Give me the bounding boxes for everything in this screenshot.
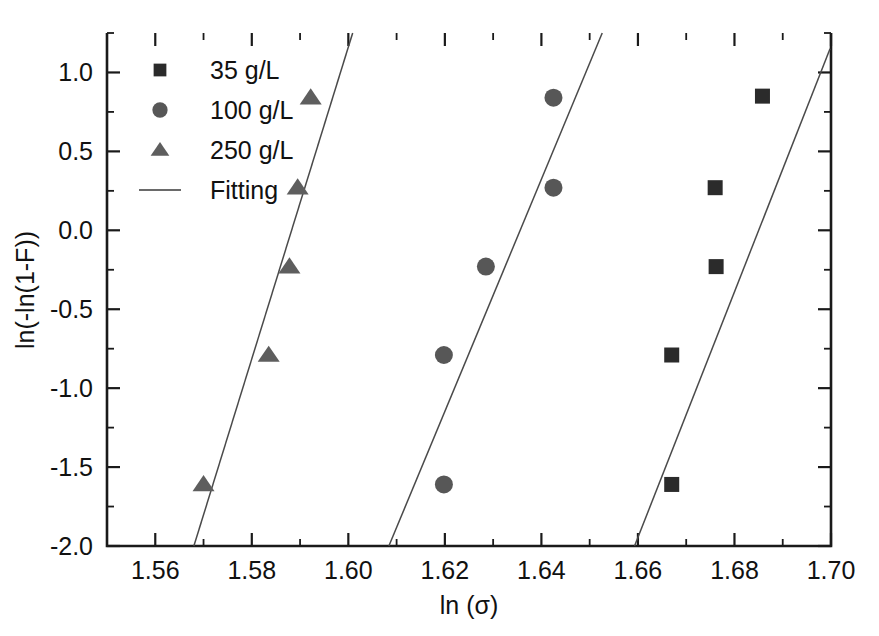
x-tick-label: 1.64 bbox=[517, 556, 566, 584]
legend-label-1: 100 g/L bbox=[210, 96, 294, 124]
legend-marker-triangle bbox=[151, 142, 170, 156]
data-point-square bbox=[664, 348, 679, 363]
data-point-circle bbox=[435, 346, 453, 364]
chart-legend: 35 g/L100 g/L250 g/LFitting bbox=[139, 56, 294, 204]
data-point-circle bbox=[544, 89, 562, 107]
data-point-circle bbox=[544, 179, 562, 197]
x-tick-label: 1.70 bbox=[807, 556, 856, 584]
fit-line-1 bbox=[389, 33, 602, 546]
x-tick-label: 1.62 bbox=[421, 556, 470, 584]
chart-canvas: 1.561.581.601.621.641.661.681.70 1.00.50… bbox=[0, 0, 879, 636]
x-tick-label: 1.60 bbox=[324, 556, 373, 584]
x-axis-title: ln (σ) bbox=[440, 591, 498, 619]
data-point-triangle bbox=[300, 88, 322, 104]
data-point-square bbox=[664, 477, 679, 492]
y-tick-label: -0.5 bbox=[50, 295, 93, 323]
legend-label-0: 35 g/L bbox=[210, 56, 280, 84]
y-tick-label: -1.5 bbox=[50, 453, 93, 481]
y-tick-label: -1.0 bbox=[50, 374, 93, 402]
data-point-square bbox=[708, 180, 723, 195]
y-axis-tick-labels: 1.00.50.0-0.5-1.0-1.5-2.0 bbox=[50, 58, 93, 560]
y-tick-label: 0.0 bbox=[58, 216, 93, 244]
legend-marker-square bbox=[154, 64, 167, 77]
legend-label-2: 250 g/L bbox=[210, 136, 294, 164]
x-axis-tick-labels: 1.561.581.601.621.641.661.681.70 bbox=[131, 556, 855, 584]
x-tick-label: 1.58 bbox=[227, 556, 276, 584]
data-point-triangle bbox=[193, 475, 215, 491]
legend-marker-circle bbox=[152, 102, 167, 117]
x-tick-label: 1.68 bbox=[710, 556, 759, 584]
data-point-square bbox=[709, 259, 724, 274]
data-point-triangle bbox=[258, 346, 280, 362]
weibull-plot-figure: 1.561.581.601.621.641.661.681.70 1.00.50… bbox=[0, 0, 879, 636]
y-axis-title: ln(-ln(1-F)) bbox=[11, 231, 39, 349]
data-point-square bbox=[755, 89, 770, 104]
y-tick-label: 0.5 bbox=[58, 137, 93, 165]
y-tick-label: -2.0 bbox=[50, 532, 93, 560]
x-tick-label: 1.56 bbox=[131, 556, 180, 584]
legend-label-3: Fitting bbox=[210, 176, 278, 204]
y-tick-label: 1.0 bbox=[58, 58, 93, 86]
fit-line-2 bbox=[635, 49, 830, 546]
data-point-circle bbox=[477, 258, 495, 276]
data-point-circle bbox=[435, 475, 453, 493]
x-tick-label: 1.66 bbox=[614, 556, 663, 584]
